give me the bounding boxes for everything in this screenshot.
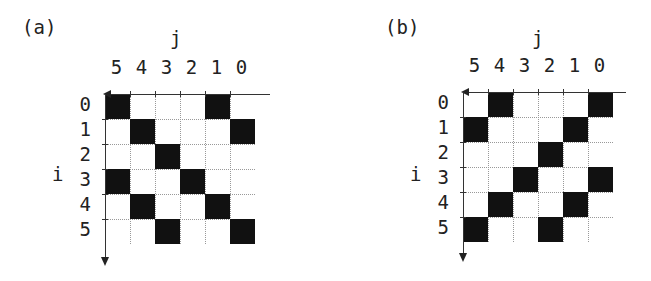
filled-cell — [130, 194, 155, 219]
axis-tick — [460, 217, 466, 218]
col-axis-title: j — [170, 27, 181, 49]
column-label: 3 — [154, 56, 179, 78]
filled-cell — [563, 192, 588, 217]
filled-cell — [230, 119, 255, 144]
panel-label: (a) — [22, 16, 56, 38]
column-label: 3 — [512, 54, 537, 76]
column-label: 5 — [104, 56, 129, 78]
filled-cell — [155, 144, 180, 169]
filled-cell — [588, 92, 613, 117]
axis-tick — [102, 169, 108, 170]
filled-cell — [205, 194, 230, 219]
filled-cell — [155, 219, 180, 244]
filled-cell — [463, 217, 488, 242]
row-axis-title: i — [52, 163, 63, 185]
filled-cell — [513, 167, 538, 192]
row-label: 0 — [429, 91, 449, 113]
column-label: 1 — [562, 54, 587, 76]
axis-tick — [460, 142, 466, 143]
filled-cell — [538, 217, 563, 242]
filled-cell — [105, 169, 130, 194]
filled-cell — [463, 117, 488, 142]
axis-tick — [513, 89, 514, 95]
axis-tick — [102, 144, 108, 145]
grid-line — [563, 92, 564, 242]
row-axis-title: i — [410, 163, 421, 185]
axis-tick — [230, 91, 231, 97]
column-label: 0 — [229, 56, 254, 78]
filled-cell — [130, 119, 155, 144]
filled-cell — [205, 94, 230, 119]
axis-tick — [102, 219, 108, 220]
col-axis-title: j — [532, 27, 543, 49]
column-label: 0 — [587, 54, 612, 76]
filled-cell — [588, 167, 613, 192]
matrix-grid — [105, 94, 255, 244]
filled-cell — [230, 219, 255, 244]
row-label: 3 — [71, 168, 91, 190]
column-label: 4 — [129, 56, 154, 78]
axis-tick — [102, 194, 108, 195]
axis-tick — [102, 119, 108, 120]
filled-cell — [538, 142, 563, 167]
filled-cell — [488, 92, 513, 117]
row-label: 4 — [71, 193, 91, 215]
row-label: 5 — [429, 216, 449, 238]
axis-tick — [130, 91, 131, 97]
axis-tick — [180, 91, 181, 97]
matrix-grid — [463, 92, 613, 242]
column-label: 2 — [179, 56, 204, 78]
panel-label: (b) — [385, 16, 419, 38]
axis-tick — [538, 89, 539, 95]
axis-tick — [588, 89, 589, 95]
filled-cell — [180, 169, 205, 194]
row-label: 0 — [71, 93, 91, 115]
arrow-down-icon — [101, 257, 109, 266]
column-label: 4 — [487, 54, 512, 76]
row-label: 2 — [71, 143, 91, 165]
column-label: 2 — [537, 54, 562, 76]
row-label: 3 — [429, 166, 449, 188]
axis-tick — [155, 91, 156, 97]
grid-line — [105, 194, 255, 195]
axis-tick — [563, 89, 564, 95]
row-label: 1 — [429, 116, 449, 138]
column-label: 5 — [462, 54, 487, 76]
row-label: 1 — [71, 118, 91, 140]
grid-line — [463, 192, 613, 193]
axis-tick — [460, 117, 466, 118]
axis-tick — [205, 91, 206, 97]
axis-tick — [460, 192, 466, 193]
axis-tick — [488, 89, 489, 95]
filled-cell — [563, 117, 588, 142]
arrow-down-icon — [459, 253, 467, 262]
row-label: 4 — [429, 191, 449, 213]
row-label: 2 — [429, 141, 449, 163]
row-label: 5 — [71, 218, 91, 240]
filled-cell — [488, 192, 513, 217]
axis-tick — [460, 167, 466, 168]
column-label: 1 — [204, 56, 229, 78]
